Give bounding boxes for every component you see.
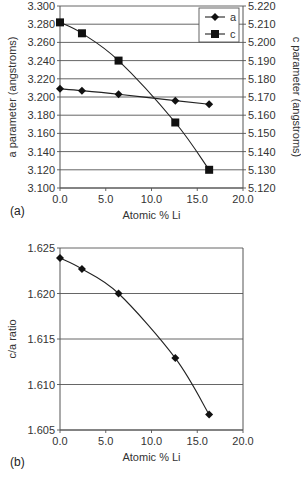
legend-label-c: c — [230, 28, 236, 40]
data-point — [56, 18, 64, 26]
y-tick-label: 1.605 — [27, 424, 55, 436]
y2-tick-label: 5.190 — [248, 55, 276, 67]
y-tick-label: 3.220 — [27, 73, 55, 85]
x-tick-label: 15.0 — [187, 435, 208, 447]
y-tick-label: 1.615 — [27, 333, 55, 345]
y-tick-label: 3.100 — [27, 182, 55, 194]
data-point — [78, 265, 86, 273]
y-tick-label: 3.260 — [27, 36, 55, 48]
data-point — [205, 100, 213, 108]
y-tick-label: 1.620 — [27, 288, 55, 300]
x-tick-label: 20.0 — [232, 193, 253, 205]
y-tick-label: 1.610 — [27, 379, 55, 391]
y-tick-label: 3.200 — [27, 91, 55, 103]
chart-a: 3.1003.1203.1403.1603.1803.2003.2203.240… — [6, 0, 301, 221]
x-tick-label: 15.0 — [187, 193, 208, 205]
panel-b-label: (b) — [10, 455, 25, 469]
y-tick-label: 3.240 — [27, 55, 55, 67]
data-point — [171, 97, 179, 105]
data-point — [56, 254, 64, 262]
x-tick-label: 0.0 — [52, 435, 67, 447]
data-point — [56, 85, 64, 93]
x-tick-label: 20.0 — [232, 435, 253, 447]
y-tick-label: 1.625 — [27, 242, 55, 254]
y-tick-label: 3.160 — [27, 127, 55, 139]
chart-b: 1.6051.6101.6151.6201.6250.05.010.015.02… — [6, 242, 254, 463]
panel-a-label: (a) — [10, 204, 25, 218]
y2-axis-label: c parameter (angstroms) — [291, 37, 301, 157]
figure: 3.1003.1203.1403.1603.1803.2003.2203.240… — [0, 0, 301, 478]
y2-tick-label: 5.180 — [248, 73, 276, 85]
y-axis-label: a parameter (angstroms) — [6, 36, 18, 157]
y-tick-label: 3.180 — [27, 109, 55, 121]
legend-label-a: a — [230, 11, 237, 23]
y-tick-label: 3.280 — [27, 18, 55, 30]
x-tick-label: 5.0 — [98, 193, 113, 205]
y2-tick-label: 5.140 — [248, 146, 276, 158]
y2-tick-label: 5.160 — [248, 109, 276, 121]
x-tick-label: 10.0 — [141, 193, 162, 205]
legend-marker-c — [211, 30, 219, 38]
series-c-a — [56, 254, 213, 419]
x-tick-label: 5.0 — [98, 435, 113, 447]
x-axis-label: Atomic % Li — [122, 451, 180, 463]
y2-tick-label: 5.170 — [248, 91, 276, 103]
data-point — [78, 87, 86, 95]
y-tick-label: 3.300 — [27, 0, 55, 12]
x-tick-label: 0.0 — [52, 193, 67, 205]
data-point — [78, 29, 86, 37]
y2-tick-label: 5.150 — [248, 127, 276, 139]
y2-tick-label: 5.200 — [248, 36, 276, 48]
y2-tick-label: 5.220 — [248, 0, 276, 12]
x-axis-label: Atomic % Li — [122, 209, 180, 221]
data-point — [171, 118, 179, 126]
data-point — [205, 166, 213, 174]
data-point — [205, 411, 213, 419]
legend: ac — [199, 8, 239, 42]
y2-tick-label: 5.210 — [248, 18, 276, 30]
y2-tick-label: 5.130 — [248, 164, 276, 176]
x-tick-label: 10.0 — [141, 435, 162, 447]
y-axis-label: c/a ratio — [6, 319, 18, 358]
series-a — [56, 85, 213, 108]
data-point — [115, 57, 123, 65]
y-tick-label: 3.120 — [27, 164, 55, 176]
y-tick-label: 3.140 — [27, 146, 55, 158]
